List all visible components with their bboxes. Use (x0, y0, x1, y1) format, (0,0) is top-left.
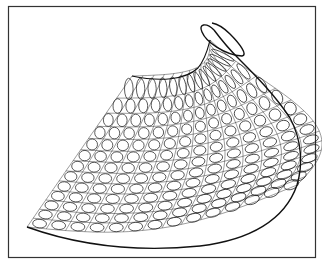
surface-edges (27, 23, 301, 248)
surface-diagram (0, 0, 322, 268)
surface-ellipse-pattern (32, 48, 320, 232)
surface-top-edge (132, 40, 210, 79)
figure (0, 0, 322, 268)
figure-frame (9, 7, 316, 258)
